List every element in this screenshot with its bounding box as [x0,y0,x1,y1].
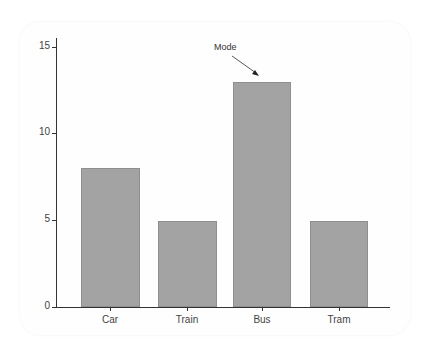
annotation-arrow-icon [0,0,430,351]
